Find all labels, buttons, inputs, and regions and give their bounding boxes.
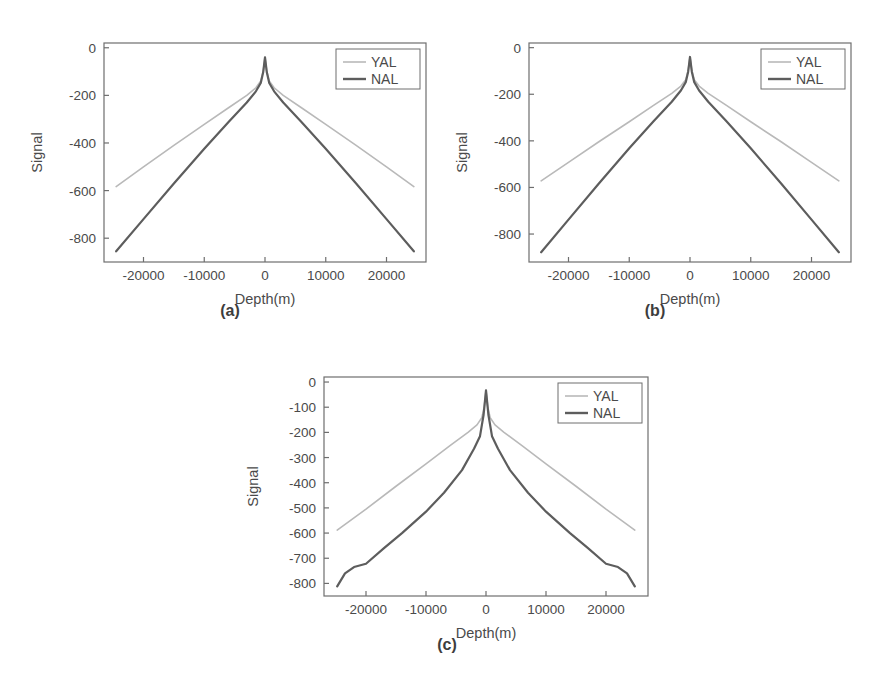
chart-panel-c: -20000-10000010000200000-100-200-300-400… [232,352,662,652]
y-tick-label: -800 [69,231,96,246]
y-tick-label: -200 [289,425,316,440]
legend-label-yal: YAL [796,54,822,70]
y-tick-label: -300 [289,451,316,466]
y-tick-label: -200 [494,87,521,102]
x-tick-label: 10000 [732,268,770,283]
chart-panel-a: -20000-10000010000200000-200-400-600-800… [20,18,440,318]
x-tick-label: 0 [261,268,269,283]
x-tick-label: -20000 [122,268,164,283]
y-tick-label: -800 [289,576,316,591]
x-tick-label: -10000 [183,268,225,283]
panel-caption-b: (b) [445,302,865,320]
y-tick-label: -400 [69,136,96,151]
x-tick-label: 20000 [793,268,831,283]
y-tick-label: -400 [494,134,521,149]
figure-container: -20000-10000010000200000-200-400-600-800… [0,0,892,691]
y-tick-label: -600 [494,180,521,195]
chart-svg-a: -20000-10000010000200000-200-400-600-800… [20,18,440,318]
y-tick-label: -100 [289,400,316,415]
chart-svg-c: -20000-10000010000200000-100-200-300-400… [232,352,662,652]
panel-caption-c: (c) [232,636,662,654]
y-tick-label: -600 [69,184,96,199]
y-axis-title: Signal [29,132,45,172]
y-tick-label: 0 [308,375,316,390]
x-tick-label: 0 [482,602,490,617]
x-tick-label: 10000 [527,602,565,617]
legend-label-yal: YAL [371,54,397,70]
x-tick-label: 10000 [307,268,345,283]
legend-label-nal: NAL [796,71,823,87]
y-tick-label: -400 [289,476,316,491]
legend-label-nal: NAL [371,71,398,87]
x-tick-label: -20000 [345,602,387,617]
y-tick-label: -500 [289,501,316,516]
y-tick-label: -700 [289,551,316,566]
panel-caption-a: (a) [20,302,440,320]
y-axis-title: Signal [454,132,470,172]
y-tick-label: 0 [88,41,96,56]
y-tick-label: -200 [69,88,96,103]
x-tick-label: 20000 [368,268,406,283]
y-axis-title: Signal [245,466,261,506]
y-tick-label: -600 [289,526,316,541]
legend-label-yal: YAL [593,388,619,404]
legend-label-nal: NAL [593,405,620,421]
y-tick-label: -800 [494,227,521,242]
chart-svg-b: -20000-10000010000200000-200-400-600-800… [445,18,865,318]
x-tick-label: -10000 [405,602,447,617]
x-tick-label: 20000 [587,602,625,617]
x-tick-label: -10000 [608,268,650,283]
y-tick-label: 0 [513,41,521,56]
chart-panel-b: -20000-10000010000200000-200-400-600-800… [445,18,865,318]
x-tick-label: -20000 [547,268,589,283]
x-tick-label: 0 [686,268,694,283]
